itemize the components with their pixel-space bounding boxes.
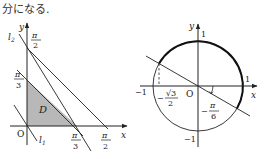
- left-x-label: x: [121, 130, 126, 140]
- l2-label: l2: [8, 32, 15, 43]
- label-neg-sqrt3-over-2: − √3 2: [157, 89, 178, 108]
- tick-y-top: 1: [201, 30, 206, 39]
- svg-text:6: 6: [211, 112, 216, 121]
- svg-text:π: π: [71, 131, 78, 140]
- svg-text:−: −: [157, 94, 164, 103]
- svg-text:2: 2: [168, 99, 173, 108]
- svg-text:2: 2: [103, 142, 108, 151]
- right-origin-label: O: [186, 89, 193, 99]
- right-y-label: y: [188, 21, 195, 31]
- left-diagram: y x O D l2 l1 π 2 π 3 π 3 π 2: [8, 22, 127, 151]
- right-diagram: y x O 1 −1 1 −1 − √3 2 − π 6: [135, 21, 257, 147]
- svg-text:−: −: [201, 107, 208, 116]
- svg-text:π: π: [101, 131, 108, 140]
- right-x-label: x: [251, 90, 256, 100]
- figure-canvas: y x O D l2 l1 π 2 π 3 π 3 π 2: [0, 0, 266, 159]
- left-origin-label: O: [17, 129, 24, 139]
- region-d-label: D: [38, 104, 47, 115]
- x-tick-pi-2: π 2: [101, 131, 111, 151]
- y-tick-pi-2: π 2: [31, 31, 41, 50]
- x-tick-pi-3: π 3: [71, 131, 81, 151]
- y-tick-pi-3: π 3: [14, 70, 24, 90]
- left-y-label: y: [18, 22, 25, 32]
- l1-label: l1: [39, 135, 46, 146]
- tick-y-bottom: −1: [184, 135, 196, 144]
- svg-text:3: 3: [73, 142, 78, 151]
- label-neg-pi-over-6: − π 6: [201, 101, 219, 121]
- svg-text:√3: √3: [166, 89, 176, 98]
- svg-text:2: 2: [33, 41, 38, 50]
- tick-x-left: −1: [135, 88, 147, 97]
- svg-text:π: π: [31, 31, 38, 40]
- svg-text:3: 3: [16, 81, 21, 90]
- tick-x-right: 1: [245, 75, 250, 84]
- svg-text:π: π: [14, 70, 21, 79]
- svg-text:π: π: [209, 101, 216, 110]
